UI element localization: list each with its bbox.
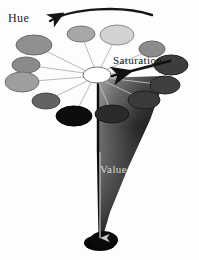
hue-label: Hue	[8, 11, 29, 26]
hue-arc-arrow	[50, 9, 152, 21]
hue-swatch-7	[150, 76, 180, 94]
hsv-cone-diagram: Hue Saturation Value	[0, 0, 199, 260]
saturation-label: Saturation	[113, 54, 162, 66]
hue-swatch-1	[12, 57, 40, 73]
hue-swatch-3	[32, 93, 60, 109]
value-label: Value	[100, 163, 127, 175]
hue-swatch-4	[56, 106, 92, 126]
hue-swatch-5	[95, 105, 129, 123]
hue-swatch-0	[16, 35, 52, 55]
diagram-canvas	[0, 0, 199, 260]
cone-apex-blob-shadow	[90, 231, 118, 249]
hue-arrow-group	[50, 9, 152, 21]
hue-swatch-10	[100, 25, 134, 45]
hue-swatch-6	[128, 91, 160, 109]
white-center-ellipse	[83, 67, 111, 83]
center-hub-group	[83, 67, 111, 83]
hue-swatch-2	[5, 72, 39, 92]
hue-swatch-11	[67, 26, 95, 42]
